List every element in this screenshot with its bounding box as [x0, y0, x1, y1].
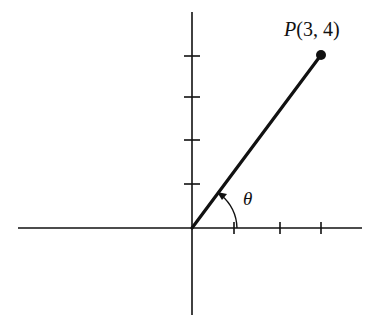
point-p [316, 50, 326, 60]
point-label-name: P [283, 18, 296, 40]
point-label: P(3, 4) [283, 18, 340, 41]
point-label-coords: (3, 4) [296, 18, 339, 41]
ray-to-point [192, 55, 321, 228]
angle-label: θ [243, 188, 252, 209]
diagram-canvas: P(3, 4) θ [0, 0, 374, 327]
